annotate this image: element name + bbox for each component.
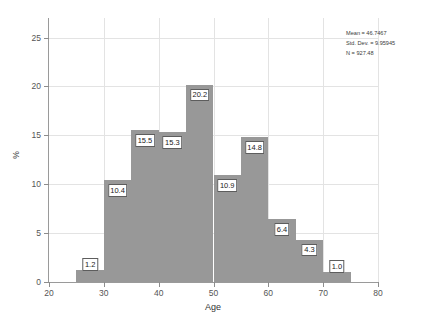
x-axis-tick-label: 40: [154, 288, 163, 298]
stat-std-dev: Std. Dev. = 9.95945: [346, 39, 395, 49]
histogram-chart: % Age 0510152025203040506070801.210.415.…: [0, 0, 430, 325]
x-axis-tick: [49, 282, 50, 287]
gridline-vertical: [323, 18, 324, 282]
y-axis-tick-label: 15: [32, 130, 41, 140]
y-axis-tick-label: 5: [36, 228, 41, 238]
x-axis-tick: [104, 282, 105, 287]
x-axis-tick: [159, 282, 160, 287]
bar-value-label: 15.5: [135, 134, 155, 147]
histogram-bar: 15.3: [159, 132, 186, 282]
bar-value-label: 20.2: [190, 89, 210, 102]
x-axis-title: Age: [48, 302, 378, 312]
x-axis-tick-label: 30: [99, 288, 108, 298]
plot-inner: 0510152025203040506070801.210.415.515.32…: [49, 18, 378, 282]
y-axis-tick-label: 25: [32, 33, 41, 43]
histogram-bar: 14.8: [241, 137, 268, 282]
bar-value-label: 4.3: [302, 244, 317, 257]
histogram-bar: 15.5: [131, 130, 158, 282]
x-axis-tick: [323, 282, 324, 287]
x-axis-tick-label: 60: [264, 288, 273, 298]
y-axis-tick-label: 0: [36, 277, 41, 287]
histogram-bar: 1.2: [76, 270, 103, 282]
stat-mean: Mean = 46.7467: [346, 29, 395, 39]
x-axis-tick-label: 50: [209, 288, 218, 298]
histogram-bar: 10.9: [214, 175, 241, 282]
y-axis-tick-label: 20: [32, 81, 41, 91]
y-axis-tick-label: 10: [32, 179, 41, 189]
x-axis-tick: [268, 282, 269, 287]
bar-value-label: 10.4: [108, 184, 128, 197]
x-axis-tick: [378, 282, 379, 287]
y-axis-tick: [44, 233, 49, 234]
histogram-bar: 20.2: [186, 85, 213, 283]
y-axis-title: %: [11, 151, 21, 159]
y-axis-tick: [44, 38, 49, 39]
y-axis-tick: [44, 184, 49, 185]
plot-area: 0510152025203040506070801.210.415.515.32…: [48, 18, 378, 283]
statistics-annotation: Mean = 46.7467 Std. Dev. = 9.95945 N = 9…: [346, 29, 395, 58]
bar-value-label: 10.9: [217, 179, 237, 192]
bar-value-label: 1.2: [82, 258, 97, 271]
x-axis-tick: [214, 282, 215, 287]
histogram-bar: 10.4: [104, 180, 131, 282]
x-axis-tick-label: 80: [373, 288, 382, 298]
stat-n: N = 927.48: [346, 49, 395, 59]
histogram-bar: 6.4: [268, 219, 295, 282]
bar-value-label: 15.3: [163, 136, 183, 149]
y-axis-tick: [44, 135, 49, 136]
histogram-bar: 1.0: [323, 272, 350, 282]
histogram-bar: 4.3: [296, 240, 323, 282]
bar-value-label: 14.8: [245, 141, 265, 154]
x-axis-tick-label: 20: [44, 288, 53, 298]
bar-value-label: 1.0: [329, 260, 344, 273]
x-axis-tick-label: 70: [318, 288, 327, 298]
bar-value-label: 6.4: [274, 223, 289, 236]
y-axis-tick: [44, 86, 49, 87]
